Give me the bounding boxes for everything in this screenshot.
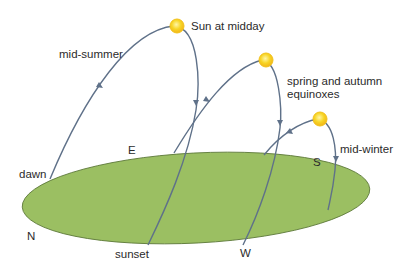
- equinoxes-label-line2: equinoxes: [287, 88, 340, 100]
- sun-icon-equinox: [259, 53, 273, 67]
- mid-summer-set-arrow-icon: [193, 100, 199, 106]
- equinox-set-arrow-icon: [277, 120, 283, 126]
- sun-icon-mid-summer: [170, 19, 184, 33]
- dawn-label: dawn: [19, 168, 47, 180]
- equinoxes-label-line1: spring and autumn: [287, 75, 382, 87]
- sun-at-midday-label: Sun at midday: [191, 20, 265, 32]
- sun-path-diagram: Sun at midday mid-summer spring and autu…: [0, 0, 409, 271]
- mid-winter-set-arrow-icon: [333, 156, 339, 162]
- sun-icon-mid-winter: [313, 112, 327, 126]
- compass-west: W: [240, 247, 251, 259]
- mid-summer-label: mid-summer: [59, 48, 123, 60]
- mid-summer-rise-arrow-icon: [96, 82, 103, 88]
- equinox-rise-arrow-icon: [203, 96, 210, 102]
- compass-east: E: [128, 144, 136, 156]
- sunset-label: sunset: [115, 248, 150, 260]
- compass-north: N: [27, 230, 35, 242]
- compass-south: S: [313, 156, 321, 168]
- mid-winter-label: mid-winter: [340, 143, 393, 155]
